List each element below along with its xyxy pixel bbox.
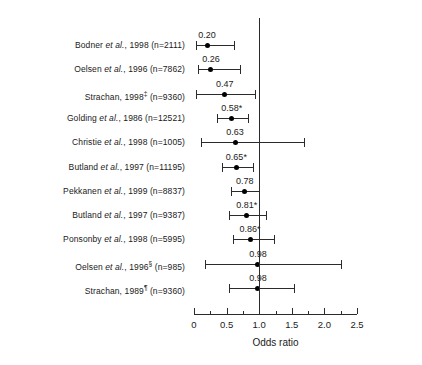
ci-lower-cap: [198, 65, 199, 74]
ci-lower-cap: [231, 187, 232, 196]
study-etal: et al.: [104, 234, 123, 244]
study-sample-size: (n=985): [155, 262, 185, 272]
study-author: Butland: [69, 162, 99, 172]
study-label: Bodner et al., 1998 (n=2111): [75, 40, 185, 50]
odds-ratio-point-marker: [248, 237, 253, 242]
study-year: 1998: [128, 137, 147, 147]
x-tick-minor: [243, 311, 244, 314]
study-label: Strachan, 1998‡ (n=9360): [85, 89, 185, 102]
odds-ratio-value-label: 0.63: [226, 127, 244, 137]
ci-upper-cap: [304, 138, 305, 147]
study-label: Oelsen et al., 1996§ (n=985): [75, 259, 185, 272]
odds-ratio-value-label: 0.47: [216, 79, 234, 89]
study-year: 1997: [125, 162, 144, 172]
study-author: Ponsonby: [63, 234, 102, 244]
ci-upper-cap: [294, 284, 295, 293]
null-reference-line: [259, 18, 260, 314]
study-label: Butland et al., 1997 (n=11195): [69, 162, 185, 172]
x-tick-major: [357, 308, 358, 314]
study-footnote-marker: ¶: [144, 284, 148, 291]
confidence-interval-line: [198, 69, 240, 70]
forest-plot-figure: Bodner et al., 1998 (n=2111)Oelsen et al…: [0, 0, 422, 365]
study-year: 1996: [128, 64, 147, 74]
study-sample-size: (n=11195): [146, 162, 185, 172]
x-tick-label: 0.5: [220, 319, 233, 330]
x-tick-label: 2.5: [350, 319, 363, 330]
study-sample-size: (n=7862): [150, 64, 185, 74]
x-tick-major: [324, 308, 325, 314]
study-footnote-marker: ‡: [144, 90, 148, 97]
study-author: Butland: [72, 210, 102, 220]
odds-ratio-point-marker: [229, 116, 234, 121]
study-footnote-marker: §: [149, 260, 153, 267]
ci-lower-cap: [205, 260, 206, 269]
study-sample-size: (n=9360): [150, 286, 185, 296]
study-sample-size: (n=1005): [150, 137, 185, 147]
ci-upper-cap: [255, 90, 256, 99]
odds-ratio-value-label: 0.98: [249, 273, 267, 283]
study-author: Oelsen: [74, 64, 102, 74]
ci-lower-cap: [196, 90, 197, 99]
x-tick-label: 1.5: [285, 319, 298, 330]
study-author: Strachan,: [85, 286, 122, 296]
x-tick-label: 2.0: [318, 319, 331, 330]
study-sample-size: (n=5995): [150, 234, 185, 244]
x-tick-minor: [276, 311, 277, 314]
ci-lower-cap: [217, 114, 218, 123]
ci-lower-cap: [222, 163, 223, 172]
study-author: Oelsen: [75, 262, 103, 272]
study-sample-size: (n=8837): [150, 186, 185, 196]
odds-ratio-point-marker: [244, 213, 249, 218]
x-tick-label: 0: [191, 319, 196, 330]
x-tick-minor: [308, 311, 309, 314]
study-label: Ponsonby et al., 1998 (n=5995): [63, 234, 185, 244]
x-tick-major: [194, 308, 195, 314]
confidence-interval-line: [229, 288, 294, 289]
study-author: Christie: [72, 137, 102, 147]
study-year: 1998: [129, 40, 148, 50]
ci-upper-cap: [274, 235, 275, 244]
study-sample-size: (n=2111): [151, 40, 185, 50]
study-label: Oelsen et al., 1996 (n=7862): [74, 64, 185, 74]
study-author: Bodner: [75, 40, 103, 50]
confidence-interval-line: [233, 239, 274, 240]
x-axis-title: Odds ratio: [252, 337, 298, 348]
confidence-interval-line: [205, 264, 341, 265]
study-year: 1997: [128, 210, 147, 220]
study-label: Pekkanen et al., 1999 (n=8837): [63, 186, 185, 196]
study-label: Butland et al., 1997 (n=9387): [72, 210, 185, 220]
x-tick-major: [259, 308, 260, 314]
study-etal: et al.: [105, 262, 124, 272]
study-sample-size: (n=12521): [145, 113, 185, 123]
odds-ratio-value-label: 0.81*: [236, 200, 257, 210]
study-year: 1996: [129, 262, 148, 272]
odds-ratio-point-marker: [233, 140, 238, 145]
ci-lower-cap: [233, 235, 234, 244]
study-author: Pekkanen: [63, 186, 102, 196]
study-author: Strachan,: [85, 91, 122, 101]
study-etal: et al.: [99, 113, 118, 123]
study-year: 1989: [125, 286, 144, 296]
ci-lower-cap: [201, 138, 202, 147]
x-tick-minor: [341, 311, 342, 314]
odds-ratio-value-label: 0.20: [198, 30, 216, 40]
study-sample-size: (n=9387): [150, 210, 185, 220]
odds-ratio-value-label: 0.58*: [221, 103, 242, 113]
study-sample-size: (n=9360): [150, 91, 185, 101]
study-etal: et al.: [104, 137, 123, 147]
odds-ratio-point-marker: [208, 67, 213, 72]
ci-lower-cap: [196, 41, 197, 50]
ci-upper-cap: [341, 260, 342, 269]
study-label: Christie et al., 1998 (n=1005): [72, 137, 185, 147]
study-author: Golding: [67, 113, 97, 123]
confidence-interval-line: [196, 45, 234, 46]
x-tick-label: 1.0: [253, 319, 266, 330]
confidence-interval-line: [201, 142, 304, 143]
x-tick-minor: [210, 311, 211, 314]
odds-ratio-point-marker: [242, 189, 247, 194]
odds-ratio-point-marker: [222, 92, 227, 97]
study-etal: et al.: [104, 210, 123, 220]
ci-upper-cap: [240, 65, 241, 74]
study-label: Golding et al., 1986 (n=12521): [67, 113, 185, 123]
study-year: 1986: [123, 113, 142, 123]
